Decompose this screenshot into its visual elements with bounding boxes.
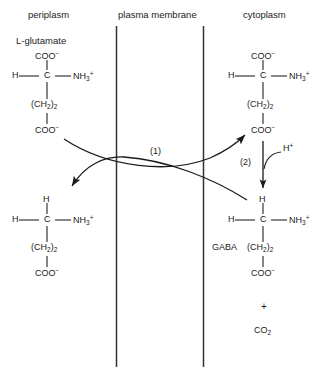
glutamate-in-alpha-carboxylate: COO− [251, 51, 275, 61]
gaba-in-methylene-chain: (CH2)2 [247, 243, 273, 253]
molecule-label-l-glutamate: L-glutamate [16, 36, 66, 46]
gaba-in-central-carbon: C [260, 215, 267, 224]
molecule-label-gaba: GABA [212, 243, 237, 252]
subscript: 2 [54, 103, 58, 110]
proton-label: H+ [283, 143, 293, 153]
glutamate-in-hydrogen: H [228, 71, 235, 80]
subscript: 2 [54, 246, 58, 253]
gaba-out-hydrogen: H [12, 215, 19, 224]
text: NH [289, 215, 302, 225]
gaba-out-central-carbon: C [44, 215, 51, 224]
charge: − [272, 124, 276, 131]
gaba-out-carboxylate: COO− [35, 268, 59, 278]
plasma-membrane-lines [117, 26, 204, 367]
gaba-out-hydrogen-top: H [43, 195, 50, 204]
text: COO [251, 125, 272, 135]
charge: + [90, 70, 94, 77]
glutamate-in-ammonium: NH3+ [289, 71, 309, 82]
glutamate-in-methylene-chain: (CH2)2 [247, 100, 273, 110]
glutamate-out-ammonium: NH3+ [73, 71, 93, 82]
charge: + [90, 214, 94, 221]
gaba-in-carboxylate: COO− [251, 268, 275, 278]
charge: + [306, 70, 310, 77]
text: (CH [247, 242, 263, 252]
glutamate-out-alpha-carboxylate: COO− [35, 51, 59, 61]
charge: + [290, 142, 294, 149]
step-label-transport: (1) [150, 147, 161, 156]
subscript: 2 [270, 246, 274, 253]
text: COO [251, 51, 272, 61]
text: COO [35, 51, 56, 61]
gaba-export-arrow [72, 157, 247, 200]
text: COO [35, 268, 56, 278]
subscript: 2 [268, 329, 272, 336]
charge: − [56, 124, 60, 131]
glutamate-out-methylene-chain: (CH2)2 [31, 100, 57, 110]
product-plus-sign: + [261, 302, 267, 312]
compartment-label-plasma-membrane: plasma membrane [118, 10, 197, 20]
glutamate-gaba-antiporter-diagram: periplasm plasma membrane cytoplasm L-gl… [0, 0, 312, 376]
glutamate-in-side-carboxylate: COO− [251, 125, 275, 135]
text: (CH [31, 99, 47, 109]
gaba-out-methylene-chain: (CH2)2 [31, 243, 57, 253]
compartment-label-periplasm: periplasm [28, 10, 69, 20]
gaba-in-hydrogen: H [228, 215, 235, 224]
charge: − [56, 50, 60, 57]
step-label-decarboxylation: (2) [240, 158, 251, 167]
text: (CH [31, 242, 47, 252]
gaba-in-hydrogen-top: H [259, 195, 266, 204]
text: (CH [247, 99, 263, 109]
gaba-out-ammonium: NH3+ [73, 215, 93, 226]
proton-consumption-curve [264, 152, 281, 169]
glutamate-in-central-carbon: C [260, 71, 267, 80]
text: NH [73, 215, 86, 225]
gaba-in-bonds [235, 203, 287, 267]
product-carbon-dioxide: CO2 [254, 326, 271, 336]
gaba-in-ammonium: NH3+ [289, 215, 309, 226]
charge: − [56, 267, 60, 274]
charge: − [272, 267, 276, 274]
subscript: 2 [270, 103, 274, 110]
text: CO [254, 325, 268, 335]
text: NH [289, 71, 302, 81]
gaba-out-bonds [19, 203, 71, 267]
charge: − [272, 50, 276, 57]
text: COO [251, 268, 272, 278]
glutamate-out-central-carbon: C [44, 71, 51, 80]
text: NH [73, 71, 86, 81]
charge: + [306, 214, 310, 221]
text: COO [35, 125, 56, 135]
glutamate-out-hydrogen: H [12, 71, 19, 80]
glutamate-out-side-carboxylate: COO− [35, 125, 59, 135]
compartment-label-cytoplasm: cytoplasm [243, 10, 286, 20]
